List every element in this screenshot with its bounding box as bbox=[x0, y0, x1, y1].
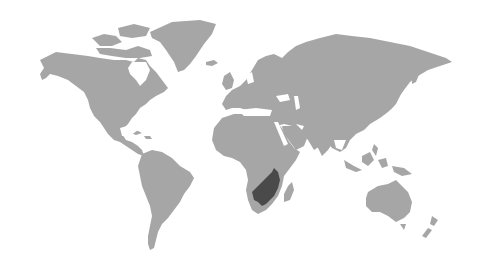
world-map bbox=[0, 0, 482, 270]
